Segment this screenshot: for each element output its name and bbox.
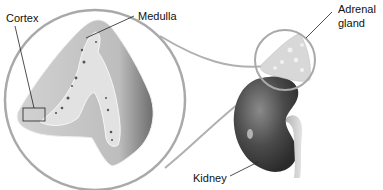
label-medulla: Medulla bbox=[138, 10, 177, 22]
label-cortex: Cortex bbox=[6, 12, 38, 24]
label-kidney: Kidney bbox=[193, 172, 227, 184]
adrenal-cross-section bbox=[17, 20, 153, 166]
kidney-illustration bbox=[234, 77, 303, 179]
diagram-illustration bbox=[0, 0, 383, 190]
adrenal-kidney-diagram: Cortex Medulla Adrenal gland Kidney bbox=[0, 0, 383, 190]
label-adrenal-line1: Adrenal bbox=[338, 3, 376, 15]
adrenal-gland-illustration bbox=[260, 33, 310, 81]
label-adrenal-line2: gland bbox=[338, 17, 365, 29]
